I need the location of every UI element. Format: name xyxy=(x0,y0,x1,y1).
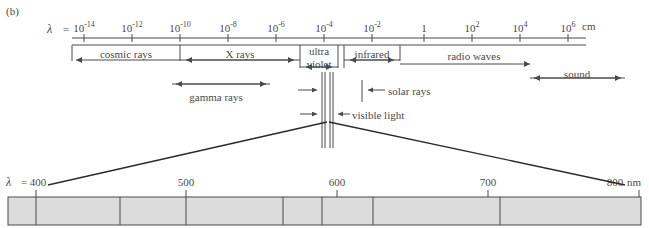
bottom-axis xyxy=(36,190,639,197)
expansion-lines xyxy=(48,122,625,185)
visible-spectrum-band xyxy=(8,197,641,225)
spectrum-figure: (b) λ = 10-14 10-12 10-10 10-8 10-6 10-4… xyxy=(0,0,649,228)
figure-vector-layer xyxy=(0,0,649,228)
visible-light-slit xyxy=(322,72,333,148)
top-axis xyxy=(72,34,586,42)
band-boxes xyxy=(72,45,586,68)
solar-rays-pointer xyxy=(362,80,385,102)
